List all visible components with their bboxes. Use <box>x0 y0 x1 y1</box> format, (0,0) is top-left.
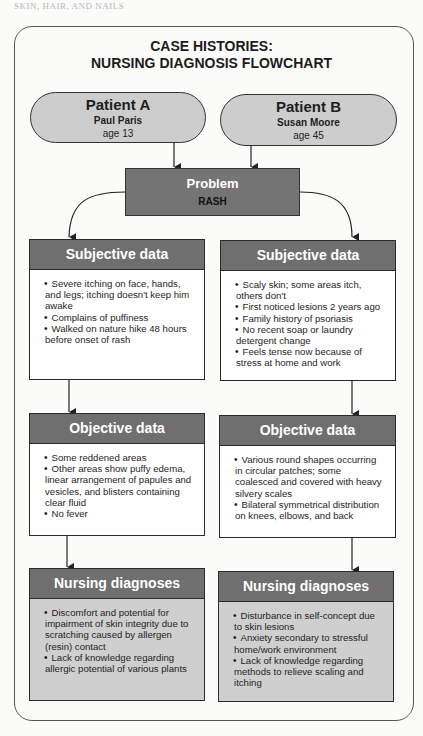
list-item: First noticed lesions 2 years ago <box>236 301 385 312</box>
list-item: Scaly skin; some areas itch, others don'… <box>236 279 385 301</box>
list-item: Lack of knowledge regarding methods to r… <box>234 655 383 689</box>
list-item: Walked on nature hike 48 hours before on… <box>45 323 194 345</box>
patient-label: Patient A <box>31 96 205 114</box>
list-item: Severe itching on face, hands, and legs;… <box>45 278 194 312</box>
patient-label: Patient B <box>221 98 396 116</box>
bullet-list: Some reddened areas Other areas show puf… <box>30 444 204 519</box>
patient-age: age 45 <box>221 129 396 143</box>
patient-age: age 13 <box>31 127 205 141</box>
list-item: Bilateral symmetrical distribution on kn… <box>235 499 385 521</box>
problem-label: Problem <box>126 176 299 191</box>
patient-name: Susan Moore <box>221 116 396 129</box>
list-item: Feels tense now because of stress at hom… <box>236 346 385 368</box>
patient-b-diagnoses-box: Nursing diagnoses Disturbance in self-co… <box>218 571 394 702</box>
patient-b-subjective-box: Subjective data Scaly skin; some areas i… <box>220 240 396 381</box>
list-item: Other areas show puffy edema, linear arr… <box>45 463 194 508</box>
patient-b-objective-box: Objective data Various round shapes occu… <box>219 415 396 538</box>
list-item: Anxiety secondary to stressful home/work… <box>234 632 383 654</box>
box-header: Nursing diagnoses <box>219 572 393 602</box>
box-header: Objective data <box>30 414 204 444</box>
patient-a-node: Patient A Paul Paris age 13 <box>30 92 206 143</box>
patient-b-node: Patient B Susan Moore age 45 <box>220 94 397 146</box>
box-header: Subjective data <box>221 241 395 271</box>
list-item: Complains of puffiness <box>45 312 194 323</box>
list-item: Various round shapes occurring in circul… <box>235 454 385 499</box>
patient-name: Paul Paris <box>31 114 205 127</box>
list-item: Family history of psoriasis <box>236 313 385 324</box>
list-item: No recent soap or laundry detergent chan… <box>236 324 385 346</box>
patient-a-subjective-box: Subjective data Severe itching on face, … <box>29 239 205 380</box>
problem-node: Problem RASH <box>125 168 300 216</box>
list-item: No fever <box>45 508 194 519</box>
list-item: Disturbance in self-concept due to skin … <box>234 610 383 632</box>
patient-a-diagnoses-box: Nursing diagnoses Discomfort and potenti… <box>29 568 205 701</box>
box-header: Nursing diagnoses <box>30 569 204 599</box>
bullet-list: Disturbance in self-concept due to skin … <box>219 602 393 688</box>
box-header: Subjective data <box>30 240 204 270</box>
bullet-list: Scaly skin; some areas itch, others don'… <box>221 271 395 369</box>
bullet-list: Severe itching on face, hands, and legs;… <box>30 270 204 345</box>
bullet-list: Discomfort and potential for impairment … <box>30 599 204 674</box>
patient-a-objective-box: Objective data Some reddened areas Other… <box>29 413 205 536</box>
list-item: Discomfort and potential for impairment … <box>45 607 194 652</box>
list-item: Lack of knowledge regarding allergic pot… <box>45 652 194 674</box>
problem-value: RASH <box>126 196 299 207</box>
box-header: Objective data <box>220 416 395 446</box>
bullet-list: Various round shapes occurring in circul… <box>220 446 395 521</box>
list-item: Some reddened areas <box>45 452 194 463</box>
